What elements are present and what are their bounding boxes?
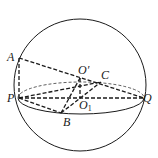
sphere-diagram: A P Q B C O′ O1	[0, 0, 158, 158]
label-O-prime: O′	[78, 63, 90, 77]
edge-BO-prime	[61, 78, 80, 113]
label-A: A	[6, 50, 15, 64]
label-P: P	[6, 91, 15, 105]
equator-back-arc	[18, 82, 144, 98]
label-B: B	[63, 115, 71, 129]
label-Q: Q	[143, 91, 152, 105]
label-O1-base: O	[79, 98, 88, 112]
label-C: C	[101, 68, 110, 82]
label-O1: O1	[79, 98, 92, 113]
edge-PC	[19, 82, 101, 98]
label-O1-subscript: 1	[88, 104, 92, 113]
